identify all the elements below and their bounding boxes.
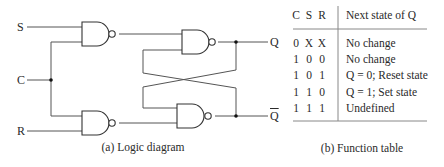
inverter-bubble-3 (109, 120, 115, 126)
cell-c: 1 (293, 53, 299, 65)
cell-next-state: Q = 1; Set state (346, 86, 417, 98)
cell-c: 1 (293, 102, 299, 114)
table-header-c: C (292, 9, 300, 21)
inverter-bubble-2 (209, 39, 215, 45)
input-label-s: S (17, 21, 24, 33)
nand-gate-4 (177, 104, 204, 128)
output-label-q-bar: Q (270, 110, 279, 122)
table-header-r: R (318, 9, 326, 21)
caption-function-table: (b) Function table (321, 142, 403, 154)
cell-c: 0 (293, 37, 299, 49)
junction-dot-c (49, 78, 53, 82)
output-label-q: Q (270, 36, 279, 48)
input-label-r: R (17, 125, 25, 137)
cell-r: X (318, 37, 326, 49)
cell-next-state: Q = 0; Reset state (346, 69, 428, 81)
cell-c: 1 (293, 86, 299, 98)
nand-gate-2 (182, 30, 209, 54)
cell-next-state: No change (346, 37, 396, 49)
junction-dot-qbar (234, 114, 238, 118)
cell-s: 0 (306, 69, 312, 81)
cell-r: 0 (319, 53, 325, 65)
cell-s: X (305, 37, 313, 49)
cell-s: 1 (306, 86, 312, 98)
nand-gate-1 (82, 22, 109, 46)
cell-r: 1 (319, 69, 325, 81)
nand-gate-3 (82, 111, 109, 135)
caption-logic-diagram: (a) Logic diagram (101, 141, 184, 153)
cell-next-state: Undefined (346, 102, 395, 114)
cell-s: 1 (306, 102, 312, 114)
cell-c: 1 (293, 69, 299, 81)
cell-s: 0 (306, 53, 312, 65)
inverter-bubble-4 (205, 113, 211, 119)
table-header-s: S (306, 9, 312, 21)
table-header-next-state: Next state of Q (346, 9, 416, 21)
inverter-bubble-1 (109, 31, 115, 37)
wire-c-branch (51, 42, 82, 116)
input-label-c: C (17, 74, 25, 86)
cell-r: 1 (319, 102, 325, 114)
junction-dot-q (234, 40, 238, 44)
cell-r: 0 (319, 86, 325, 98)
cell-next-state: No change (346, 53, 396, 65)
